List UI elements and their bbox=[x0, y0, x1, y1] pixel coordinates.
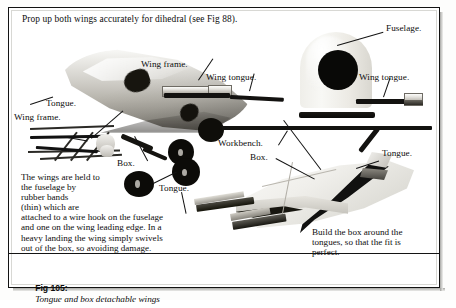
callout-wing-frame-left: Wing frame. bbox=[14, 112, 61, 122]
frame-drop-shadow-right bbox=[440, 12, 443, 291]
callout-box-left: Box. bbox=[117, 158, 135, 168]
wing-tongue-rod-right bbox=[356, 99, 408, 104]
wing-tongue-rod-center bbox=[164, 93, 230, 98]
callout-wing-tongue-mid: Wing tongue. bbox=[206, 72, 256, 82]
callout-fuselage: Fuselage. bbox=[386, 23, 421, 33]
caption-title: Tongue and box detachable wings bbox=[35, 294, 160, 304]
fuselage-bore bbox=[318, 50, 358, 90]
wing-tongue-ferrule-shadow bbox=[404, 100, 423, 105]
callout-wing-frame-top: Wing frame. bbox=[141, 59, 188, 69]
workbench-surface bbox=[222, 126, 432, 130]
callout-workbench: Workbench. bbox=[218, 138, 263, 148]
fuselage-end-base bbox=[299, 112, 375, 118]
caption-rule bbox=[8, 253, 440, 254]
callout-tongue-left: Tongue. bbox=[46, 98, 76, 108]
callout-box-right: Box. bbox=[250, 152, 268, 162]
note-wing-attachment: The wings are held to the fuselage by ru… bbox=[21, 172, 207, 253]
figure-caption: Fig 105: Tongue and box detachable wings bbox=[26, 272, 160, 308]
wing-frame-tip-block-lower bbox=[100, 145, 114, 157]
headline-text: Prop up both wings accurately for dihedr… bbox=[22, 14, 237, 25]
caption-separator: : bbox=[65, 283, 68, 293]
caption-label: Fig 105 bbox=[35, 283, 65, 293]
callout-wing-tongue-right: Wing tongue. bbox=[359, 72, 409, 82]
wheel-rear-hub bbox=[178, 149, 183, 156]
callout-tongue-right: Tongue. bbox=[382, 148, 412, 158]
